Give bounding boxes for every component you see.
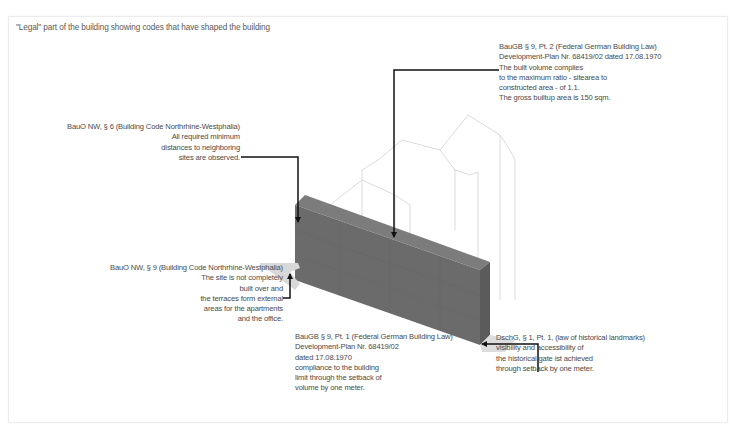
annotation-line: and the office. xyxy=(110,314,283,324)
annotation-line: BauGB § 9, Pt. 2 (Federal German Buildin… xyxy=(499,42,661,52)
annotation-line: compliance to the building xyxy=(295,363,453,373)
annotation-line: BauO NW, § 6 (Building Code Northrhine-W… xyxy=(67,122,240,132)
annotation-line: limit through the setback of xyxy=(295,373,453,383)
annotation-line: BauGB § 9, Pt. 1 (Federal German Buildin… xyxy=(295,332,453,342)
annotation-baugb-pt1: BauGB § 9, Pt. 1 (Federal German Buildin… xyxy=(295,332,453,394)
building-volume xyxy=(295,195,490,345)
leader-bauo-par6 xyxy=(241,157,298,222)
annotation-line: The gross builtup area is 150 sqm. xyxy=(499,93,661,103)
annotation-line: sites are observed. xyxy=(67,153,240,163)
annotation-line: Development-Plan Nr. 68419/02 dated 17.0… xyxy=(499,52,661,62)
annotation-line: volume by one meter. xyxy=(295,383,453,393)
annotation-dschg: DschG, § 1, Pt. 1, (law of historical la… xyxy=(496,333,645,374)
annotation-line: The built volume complies xyxy=(499,63,661,73)
annotation-line: All required minimum xyxy=(67,132,240,142)
annotation-line: through setback by one meter. xyxy=(496,364,645,374)
annotation-bauo-par9: BauO NW, § 9 (Building Code Northrhine-W… xyxy=(110,263,283,325)
annotation-line: BauO NW, § 9 (Building Code Northrhine-W… xyxy=(110,263,283,273)
leader-lines xyxy=(241,70,538,372)
annotation-line: areas for the apartments xyxy=(110,304,283,314)
annotation-line: Development-Plan Nr. 68419/02 xyxy=(295,342,453,352)
annotation-line: distances to neighboring xyxy=(67,143,240,153)
annotation-line: visibility and accessibility of xyxy=(496,343,645,353)
annotation-bauo-par6: BauO NW, § 6 (Building Code Northrhine-W… xyxy=(67,122,240,163)
annotation-line: built over and xyxy=(110,284,283,294)
annotation-line: DschG, § 1, Pt. 1, (law of historical la… xyxy=(496,333,645,343)
annotation-line: to the maximum ratio - sitearea to xyxy=(499,73,661,83)
annotation-line: the terraces form external xyxy=(110,294,283,304)
annotation-line: The site is not completely xyxy=(110,273,283,283)
annotation-line: constructed area - of 1.1. xyxy=(499,83,661,93)
annotation-line: the historical gate ist achieved xyxy=(496,354,645,364)
annotation-baugb-pt2: BauGB § 9, Pt. 2 (Federal German Buildin… xyxy=(499,42,661,104)
annotation-line: dated 17.08.1970 xyxy=(295,353,453,363)
